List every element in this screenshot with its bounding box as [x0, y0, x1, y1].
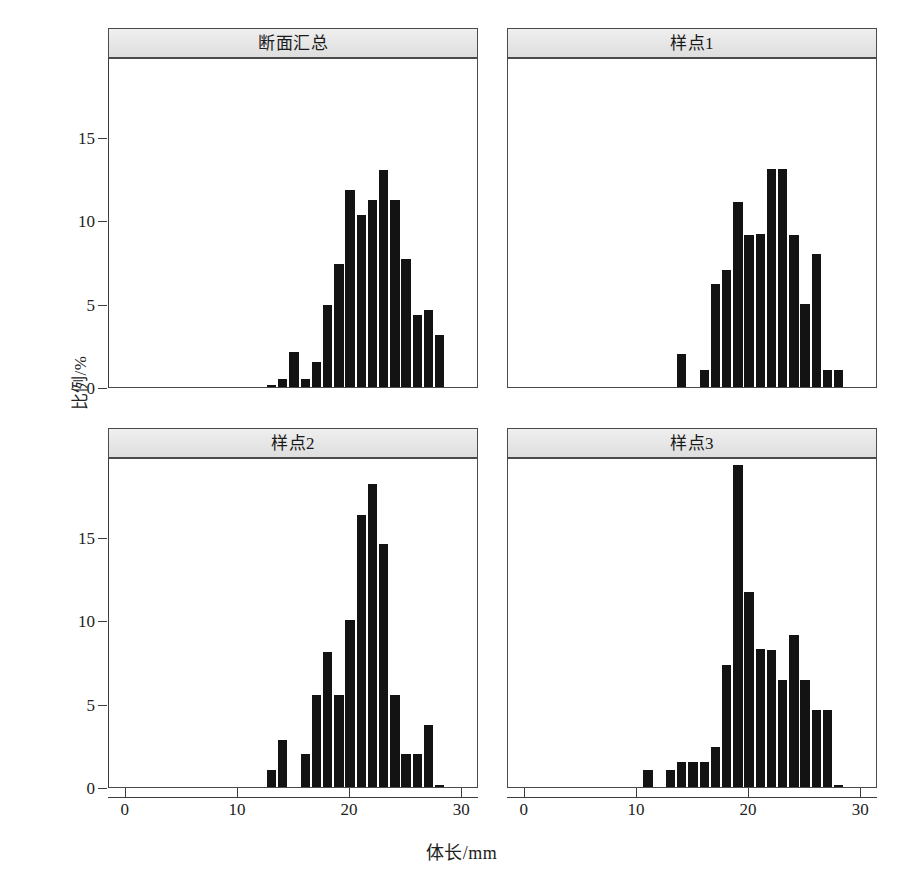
- y-tick: [98, 705, 107, 706]
- x-tick-label: 10: [616, 801, 656, 818]
- panel-strip-2: 样点1: [507, 28, 877, 58]
- bar: [357, 215, 366, 387]
- bar: [756, 234, 765, 387]
- bar: [435, 335, 444, 387]
- bar: [390, 200, 399, 387]
- panel-title-1: 断面汇总: [258, 35, 328, 52]
- bar: [789, 235, 798, 387]
- x-tick-label: 0: [504, 801, 544, 818]
- bar: [401, 754, 410, 787]
- panel-4: 样点3: [507, 428, 877, 788]
- bar: [778, 169, 787, 387]
- bar: [357, 515, 366, 787]
- y-tick: [98, 221, 107, 222]
- bar: [733, 465, 742, 787]
- y-tick-label: 5: [87, 297, 96, 314]
- bar: [666, 770, 675, 787]
- y-axis-top: 051015: [98, 58, 108, 388]
- panel-strip-1: 断面汇总: [108, 28, 478, 58]
- y-tick: [98, 305, 107, 306]
- plot-area-2: [507, 58, 877, 388]
- x-axis-right: 0102030: [507, 788, 877, 828]
- bar: [267, 385, 276, 387]
- bar: [767, 650, 776, 787]
- y-tick: [98, 538, 107, 539]
- bar: [812, 710, 821, 787]
- bar: [643, 770, 652, 787]
- bar: [700, 762, 709, 787]
- bar: [756, 649, 765, 787]
- bar: [800, 680, 809, 787]
- bar: [379, 170, 388, 387]
- bar: [677, 762, 686, 787]
- y-tick: [98, 621, 107, 622]
- bar: [312, 362, 321, 387]
- bar: [778, 680, 787, 787]
- bar-series-4: [508, 459, 876, 787]
- bar: [789, 635, 798, 787]
- plot-area-3: [108, 458, 478, 788]
- x-tick: [636, 788, 637, 797]
- y-tick-label: 0: [87, 380, 96, 397]
- bar: [334, 695, 343, 787]
- bar: [278, 740, 287, 787]
- bar: [413, 315, 422, 387]
- bar: [289, 352, 298, 387]
- bar: [733, 202, 742, 387]
- y-tick: [98, 788, 107, 789]
- bar: [424, 310, 433, 387]
- x-tick-label: 20: [728, 801, 768, 818]
- plot-area-4: [507, 458, 877, 788]
- bar: [345, 620, 354, 787]
- bar: [267, 770, 276, 787]
- bar: [323, 652, 332, 787]
- bar: [800, 304, 809, 387]
- figure-root: 比例/% 体长/mm 断面汇总样点1样点2样点3 051015051015010…: [0, 0, 923, 891]
- x-tick: [237, 788, 238, 797]
- bar: [390, 695, 399, 787]
- bar-series-3: [109, 459, 477, 787]
- bar: [744, 592, 753, 787]
- bar: [424, 725, 433, 787]
- panel-title-2: 样点1: [670, 35, 714, 52]
- x-axis-line: [507, 797, 877, 798]
- bar: [401, 259, 410, 387]
- y-tick-label: 10: [78, 213, 95, 230]
- x-tick: [461, 788, 462, 797]
- bar: [345, 190, 354, 387]
- y-tick: [98, 388, 107, 389]
- bar: [301, 754, 310, 787]
- bar-series-2: [508, 59, 876, 387]
- bar: [677, 354, 686, 387]
- x-tick: [860, 788, 861, 797]
- bar: [767, 169, 776, 387]
- y-axis-line: [108, 58, 109, 388]
- y-axis-line: [108, 458, 109, 788]
- x-axis-line: [108, 797, 478, 798]
- bar: [323, 305, 332, 387]
- bar: [812, 254, 821, 387]
- plot-area-1: [108, 58, 478, 388]
- y-axis-bottom: 051015: [98, 458, 108, 788]
- bar: [722, 665, 731, 787]
- bar: [688, 762, 697, 787]
- bar-series-1: [109, 59, 477, 387]
- bar: [379, 544, 388, 787]
- bar: [834, 785, 843, 787]
- bar: [823, 710, 832, 787]
- bar: [334, 264, 343, 387]
- x-tick-label: 30: [441, 801, 481, 818]
- panel-2: 样点1: [507, 28, 877, 388]
- bar: [744, 235, 753, 387]
- x-axis-title: 体长/mm: [0, 838, 923, 864]
- bar: [722, 270, 731, 387]
- bar: [278, 379, 287, 387]
- bar: [368, 484, 377, 787]
- y-tick: [98, 138, 107, 139]
- panel-title-4: 样点3: [670, 435, 714, 452]
- panel-1: 断面汇总: [108, 28, 478, 388]
- panel-strip-3: 样点2: [108, 428, 478, 458]
- panel-strip-4: 样点3: [507, 428, 877, 458]
- bar: [413, 754, 422, 787]
- bar: [700, 370, 709, 387]
